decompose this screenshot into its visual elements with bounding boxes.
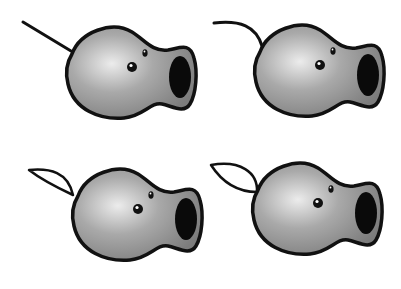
narrow-leaf-icon (29, 170, 73, 195)
creature-curved-stem (214, 22, 384, 116)
straight-stem-icon (23, 22, 71, 51)
creature-straight-stem (23, 22, 196, 118)
wide-leaf-icon (211, 164, 257, 192)
creature-wide-leaf (211, 163, 382, 254)
creature-illustration (0, 0, 401, 289)
curved-stem-icon (214, 22, 262, 46)
creature-narrow-leaf (29, 169, 202, 260)
